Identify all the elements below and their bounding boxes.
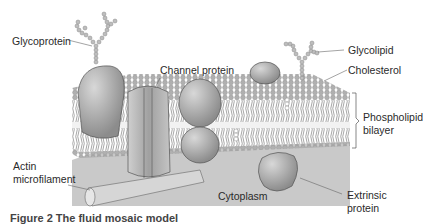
peripheral-protein-top (250, 62, 280, 84)
cholesterol-leader (324, 70, 347, 81)
label-actin: Actin (13, 160, 36, 172)
glycolipid-leader (318, 50, 344, 52)
label-cholesterol: Cholesterol (348, 64, 401, 76)
label-microfilament: microfilament (13, 173, 75, 185)
label-channel-protein: Channel protein (160, 64, 234, 76)
figure-caption: Figure 2 The fluid mosaic model (10, 212, 178, 224)
label-bilayer: bilayer (363, 124, 394, 136)
label-extrinsic: Extrinsic (347, 189, 387, 201)
extrinsic-protein-shape (258, 152, 297, 191)
label-glycolipid: Glycolipid (348, 44, 394, 56)
integral-protein-lower (181, 127, 219, 163)
label-phospholipid: Phospholipid (363, 111, 423, 123)
label-glycoprotein: Glycoprotein (12, 35, 71, 47)
label-protein: protein (347, 202, 379, 214)
bilayer-bracket (352, 93, 359, 148)
label-cytoplasm: Cytoplasm (218, 190, 268, 202)
integral-protein-upper (179, 79, 221, 127)
channel-protein-shape (128, 86, 170, 178)
glycoprotein-leader (68, 40, 92, 46)
glycoprotein-shape (75, 12, 124, 138)
